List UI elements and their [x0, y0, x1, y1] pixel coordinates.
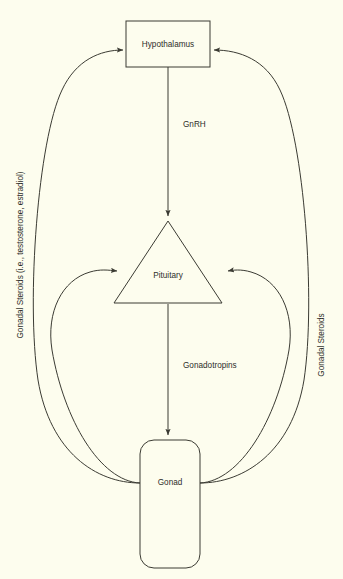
right-gonadal-steroids-label: Gonadal Steroids [317, 313, 326, 376]
feedback-right-long-path [200, 50, 309, 483]
hypothalamus-label: Hypothalamus [142, 40, 194, 49]
feedback-left-short-path [51, 270, 140, 483]
feedback-left-long-path [33, 50, 140, 483]
hpg-axis-diagram: Hypothalamus Pituitary Gonad GnRH Gonado… [0, 0, 343, 579]
gonadotropins-label: Gonadotropins [183, 361, 237, 370]
pituitary-label: Pituitary [153, 271, 183, 280]
gnrh-label: GnRH [183, 120, 206, 129]
gonad-label: Gonad [158, 478, 183, 487]
feedback-right-short-path [200, 270, 290, 483]
diagram-canvas: Hypothalamus Pituitary Gonad GnRH Gonado… [0, 0, 343, 579]
pituitary-triangle[interactable] [114, 221, 222, 303]
gonad-box[interactable] [140, 440, 200, 568]
left-gonadal-steroids-label: Gonadal Steroids (i.e., testosterone, es… [16, 171, 25, 338]
